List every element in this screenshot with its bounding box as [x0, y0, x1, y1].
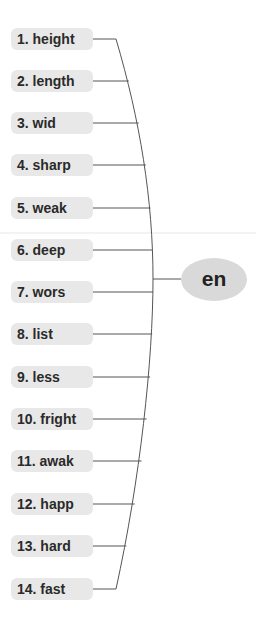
branch-node[interactable]: 6. deep: [11, 239, 93, 261]
branch-node[interactable]: 10. fright: [11, 408, 93, 430]
branch-node[interactable]: 7. wors: [11, 281, 93, 303]
bracket-curve: [116, 39, 153, 589]
branch-node[interactable]: 4. sharp: [11, 154, 93, 176]
branch-node[interactable]: 1. height: [11, 28, 93, 50]
branch-node[interactable]: 2. length: [11, 70, 93, 92]
branch-node[interactable]: 11. awak: [11, 450, 93, 472]
branch-node[interactable]: 9. less: [11, 366, 93, 388]
branch-node[interactable]: 8. list: [11, 323, 93, 345]
branch-node[interactable]: 12. happ: [11, 493, 93, 515]
branch-lines: [93, 39, 153, 589]
branch-node[interactable]: 14. fast: [11, 578, 93, 600]
branch-node[interactable]: 13. hard: [11, 535, 93, 557]
branch-node[interactable]: 5. weak: [11, 197, 93, 219]
center-node[interactable]: en: [181, 258, 247, 301]
branch-node[interactable]: 3. wid: [11, 112, 93, 134]
connector-lines: [0, 0, 256, 627]
